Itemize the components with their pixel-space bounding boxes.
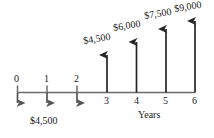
axis-title-years: Years [138, 110, 160, 120]
tick-marks-early [18, 86, 78, 93]
tick-label-year-0: 0 [14, 74, 19, 84]
tick-label-year-1: 1 [44, 74, 49, 84]
tick-label-year-3: 3 [104, 96, 109, 106]
tick-label-year-6: 6 [192, 96, 197, 106]
outflow-amount-label: $4,500 [30, 116, 58, 126]
cash-flow-diagram: 0 1 2 3 4 5 6 $4,500 $4,500 $6,000 $7,50… [0, 0, 214, 138]
tick-label-year-4: 4 [134, 96, 139, 106]
tick-label-year-5: 5 [163, 96, 168, 106]
outflow-arrows [18, 93, 78, 104]
tick-label-year-2: 2 [74, 74, 79, 84]
